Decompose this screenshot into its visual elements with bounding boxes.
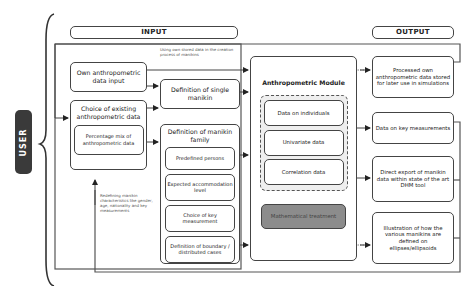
output-header: OUTPUT (372, 26, 454, 39)
family-item-predefined: Predefined persons (165, 147, 235, 170)
user-label: USER (15, 110, 32, 174)
output-direct-export: Direct export of manikin data within sta… (372, 156, 454, 202)
output-processed-data: Processed own anthropometric data stored… (372, 56, 454, 98)
manikin-family-label: Definition of manikin family (161, 128, 239, 144)
correlation-data-box: Correlation data (264, 159, 344, 185)
annotation-bottom: Redefining manikin characteristics like … (100, 193, 158, 213)
module-title: Anthropometric Module (262, 79, 345, 87)
own-data-input-box: Own anthropometric data input (70, 62, 147, 92)
family-item-accommodation: Expected accommodation level (165, 174, 235, 201)
anthropometric-module: Anthropometric Module Data on individual… (250, 56, 357, 261)
mathematical-treatment-box: Mathematical treatment (261, 204, 346, 229)
input-header: INPUT (70, 26, 238, 39)
manikin-family-box: Definition of manikin family Predefined … (160, 124, 240, 264)
percentage-mix-box: Percentage mix of anthropometric data (74, 125, 144, 155)
user-brace (40, 14, 54, 286)
family-item-boundary: Definition of boundary / distributed cas… (165, 236, 235, 263)
family-item-key-measurement: Choice of key measurement (165, 205, 235, 232)
choice-existing-label: Choice of existing anthropometric data (71, 105, 146, 121)
data-individuals-box: Data on individuals (264, 100, 344, 126)
single-manikin-box: Definition of single manikin (160, 79, 240, 109)
user-label-text: USER (19, 128, 28, 156)
output-illustration: Illustration of how the various manikins… (372, 212, 454, 264)
choice-existing-box: Choice of existing anthropometric data P… (70, 100, 147, 170)
annotation-top: Using own stored data in the creation pr… (160, 47, 240, 57)
output-key-measurements: Data on key measurements (372, 112, 454, 144)
univariate-data-box: Univariate data (264, 130, 344, 156)
module-data-group: Data on individuals Univariate data Corr… (260, 95, 348, 191)
